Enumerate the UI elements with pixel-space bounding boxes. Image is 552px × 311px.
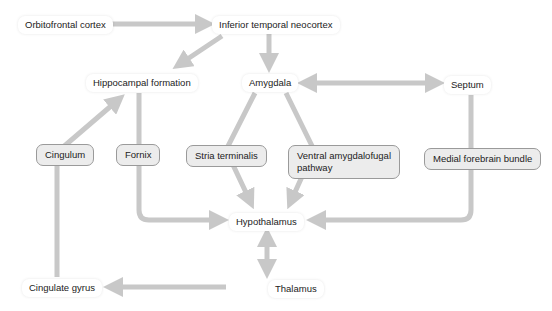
node-inferior-temporal-neocortex: Inferior temporal neocortex <box>212 16 340 34</box>
node-amygdala: Amygdala <box>242 74 298 92</box>
tract-ventral-amygdalofugal-pathway: Ventral amygdalofugal pathway <box>288 145 400 179</box>
arrow-inferior-temporal-to-hippocampal <box>180 36 222 64</box>
node-septum: Septum <box>444 76 491 94</box>
tract-cingulum: Cingulum <box>36 144 94 166</box>
node-thalamus: Thalamus <box>268 280 324 298</box>
node-hippocampal-formation: Hippocampal formation <box>86 74 198 92</box>
node-cingulate-gyrus: Cingulate gyrus <box>22 279 102 297</box>
tract-medial-forebrain-bundle: Medial forebrain bundle <box>424 148 541 170</box>
tract-fornix: Fornix <box>116 144 160 166</box>
arrow-cingulum-to-hippocampal <box>57 100 118 277</box>
node-orbitofrontal-cortex: Orbitofrontal cortex <box>18 16 113 34</box>
tract-stria-terminalis: Stria terminalis <box>186 145 267 167</box>
node-hypothalamus: Hypothalamus <box>229 213 304 231</box>
